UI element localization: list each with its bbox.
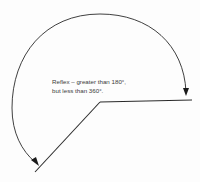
arrowhead-left — [31, 157, 39, 166]
label-line-2: but less than 360°. — [52, 86, 162, 95]
angle-label: Reflex – greater than 180°, but less tha… — [52, 77, 162, 95]
label-line-1: Reflex – greater than 180°, — [52, 77, 162, 86]
horizontal-ray — [100, 100, 192, 102]
arrowhead-right — [183, 88, 189, 96]
diagonal-ray — [35, 102, 100, 172]
reflex-angle-diagram: Reflex – greater than 180°, but less tha… — [0, 0, 200, 182]
